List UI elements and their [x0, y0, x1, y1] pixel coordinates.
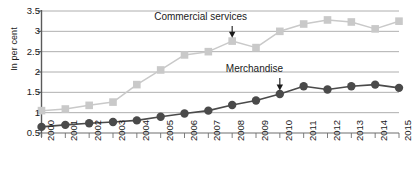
x-axis-tick-label: 2003	[117, 120, 127, 141]
x-axis-tick-label: 2001	[69, 120, 79, 141]
x-axis-tick-label: 2006	[189, 120, 199, 141]
x-axis-tick-label: 2014	[379, 120, 389, 141]
x-axis-tick-label: 2009	[260, 120, 270, 141]
x-axis-tick-label: 2012	[332, 120, 342, 141]
x-axis-tick-label: 2007	[212, 120, 222, 141]
x-axis-tick-label: 2000	[46, 120, 56, 141]
x-axis-tick-label: 2013	[355, 120, 365, 141]
annotation-commercial-services: Commercial services	[154, 12, 247, 22]
x-axis-tick-label: 2015	[403, 120, 413, 141]
x-axis-tick-label: 2008	[236, 120, 246, 141]
x-axis-tick-label: 2005	[165, 120, 175, 141]
x-axis-tick-label: 2002	[93, 120, 103, 141]
x-axis-tick-label: 2011	[308, 121, 318, 141]
annotation-merchandise: Merchandise	[226, 64, 283, 74]
x-axis-tick-label: 2004	[141, 120, 151, 141]
x-axis-tick-label: 2010	[284, 120, 294, 141]
